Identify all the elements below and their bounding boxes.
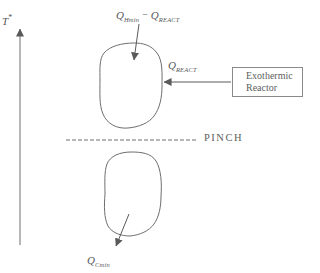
- hot-utility-arrow: [134, 24, 139, 60]
- below-pinch-region-blob: [104, 152, 161, 236]
- pinch-label: PINCH: [204, 132, 243, 143]
- above-pinch-region-blob: [100, 43, 162, 128]
- reactor-box-line1: Exothermic: [246, 70, 302, 82]
- minus-operator: −: [142, 9, 148, 20]
- reactor-box-line2: Reactor: [246, 82, 302, 94]
- above-pinch-duty-label: QHmin−QREACT: [116, 5, 180, 23]
- q-react-symbol: Q: [151, 9, 159, 21]
- temperature-axis-superscript: *: [8, 13, 12, 22]
- q-hmin-symbol: Q: [116, 9, 124, 21]
- q-cmin-subscript: Cmin: [95, 261, 110, 268]
- q-react-arrow-symbol: Q: [168, 59, 176, 71]
- temperature-axis-label: T*: [2, 13, 12, 27]
- below-pinch-duty-label: QCmin: [87, 250, 110, 268]
- reactor-duty-label: QREACT: [168, 55, 197, 73]
- exothermic-reactor-box: Exothermic Reactor: [232, 67, 303, 97]
- q-react-arrow-subscript: REACT: [176, 66, 197, 73]
- q-cmin-symbol: Q: [87, 254, 95, 266]
- q-hmin-subscript: Hmin: [124, 16, 139, 23]
- cold-utility-arrow: [116, 214, 129, 246]
- diagram-lines: [0, 0, 320, 273]
- q-react-subscript: REACT: [159, 16, 180, 23]
- pinch-diagram: T* QHmin−QREACT QREACT Exothermic Reacto…: [0, 0, 320, 273]
